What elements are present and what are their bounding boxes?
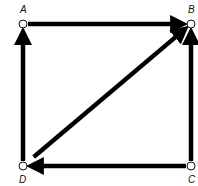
directed-graph: ABCD: [0, 0, 198, 186]
node-label-d: D: [19, 174, 26, 185]
node-c: [187, 162, 195, 170]
edge-d-to-b: [34, 31, 183, 157]
node-d: [19, 162, 27, 170]
node-label-c: C: [188, 174, 196, 185]
node-b: [187, 20, 195, 28]
node-label-a: A: [19, 4, 27, 15]
node-a: [19, 20, 27, 28]
node-label-b: B: [188, 4, 195, 15]
